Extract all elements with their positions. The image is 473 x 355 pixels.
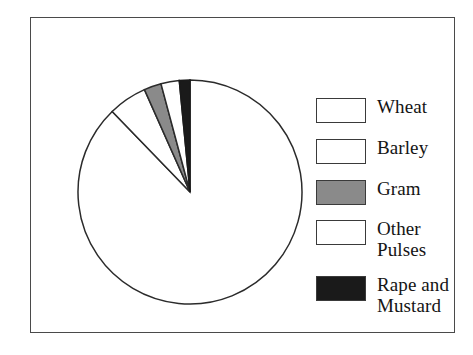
legend-item-wheat[interactable]: Wheat bbox=[316, 96, 473, 123]
legend-item-rape-and-mustard[interactable]: Rape and Mustard bbox=[316, 274, 473, 316]
legend-label-wheat: Wheat bbox=[377, 96, 427, 117]
legend-swatch-other-pulses bbox=[316, 220, 366, 245]
pie-slice-group bbox=[78, 80, 302, 304]
pie-plot-area bbox=[76, 78, 304, 306]
legend-item-gram[interactable]: Gram bbox=[316, 178, 473, 205]
pie-chart-figure: Wheat Barley Gram Other Pulses Rape and … bbox=[0, 0, 473, 355]
legend-item-barley[interactable]: Barley bbox=[316, 137, 473, 164]
legend-label-gram: Gram bbox=[377, 178, 421, 199]
legend-item-other-pulses[interactable]: Other Pulses bbox=[316, 218, 473, 260]
chart-legend: Wheat Barley Gram Other Pulses Rape and … bbox=[316, 96, 473, 316]
pie-svg bbox=[76, 78, 304, 306]
legend-label-barley: Barley bbox=[377, 137, 428, 158]
legend-swatch-rape-and-mustard bbox=[316, 276, 366, 301]
legend-swatch-gram bbox=[316, 180, 366, 205]
legend-swatch-wheat bbox=[316, 98, 366, 123]
chart-frame-border: Wheat Barley Gram Other Pulses Rape and … bbox=[30, 17, 455, 333]
legend-label-other-pulses: Other Pulses bbox=[377, 218, 426, 260]
legend-swatch-barley bbox=[316, 139, 366, 164]
legend-label-rape-and-mustard: Rape and Mustard bbox=[377, 274, 449, 316]
